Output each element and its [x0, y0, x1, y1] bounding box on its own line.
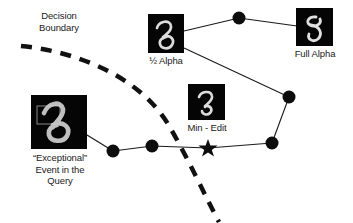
query-thumbnail-label: “Exceptional” Event in the Query — [10, 152, 110, 187]
edge-half-alpha-to-node-top — [184, 18, 239, 31]
full-alpha-label: Full Alpha — [278, 48, 352, 60]
decision-boundary-label: Decision Boundary — [16, 10, 102, 33]
half-alpha-digit-image — [148, 14, 184, 53]
full-alpha-digit-thumbnail[interactable] — [296, 8, 333, 46]
node-right-lower[interactable] — [266, 137, 279, 150]
diagram-canvas: “Exceptional” Event in the Query ½ Alpha… — [0, 0, 353, 223]
node-path-2[interactable] — [146, 140, 159, 153]
query-digit-thumbnail[interactable] — [31, 95, 87, 149]
half-alpha-label: ½ Alpha — [128, 55, 204, 67]
node-right-upper[interactable] — [283, 91, 296, 104]
query-digit-image — [31, 95, 87, 149]
edge-star-to-node-right-lower — [208, 143, 272, 148]
full-alpha-digit-image — [296, 8, 333, 46]
min-edit-digit-thumbnail[interactable] — [188, 84, 225, 120]
half-alpha-digit-thumbnail[interactable] — [148, 14, 184, 53]
min-edit-label: Min - Edit — [166, 122, 248, 134]
edge-node-right-lower-to-upper — [272, 97, 289, 143]
edge-node-top-to-full-alpha — [239, 18, 297, 26]
node-top[interactable] — [233, 12, 246, 25]
min-edit-digit-image — [188, 84, 225, 120]
